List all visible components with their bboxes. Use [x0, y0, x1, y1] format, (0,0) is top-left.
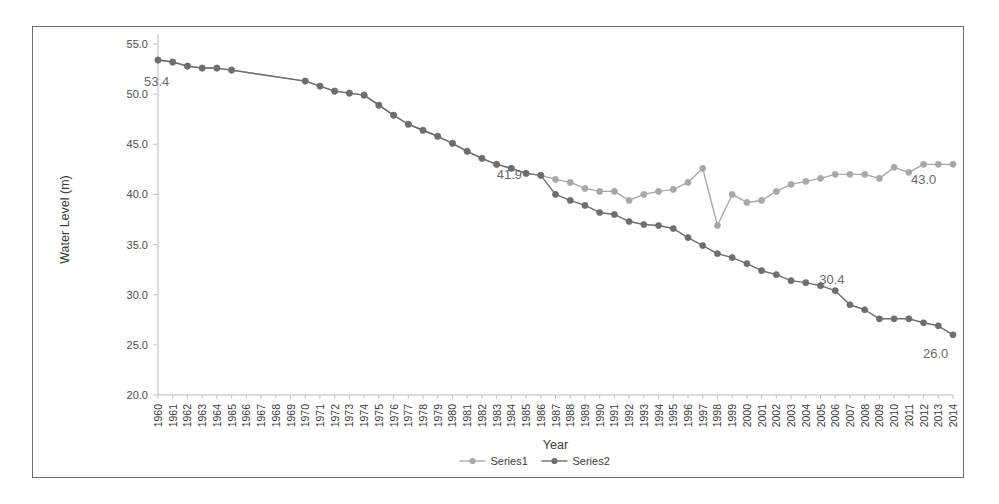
x-tick-label: 1982	[476, 404, 488, 428]
legend-label: Series1	[491, 455, 528, 467]
data-point	[950, 332, 956, 338]
x-tick-label: 1988	[564, 404, 576, 428]
legend-swatch-marker	[469, 458, 475, 464]
data-point	[567, 197, 573, 203]
x-tick-label: 1979	[432, 404, 444, 428]
x-tick-label: 1987	[550, 404, 562, 428]
data-point	[611, 188, 617, 194]
data-point	[346, 90, 352, 96]
y-tick-label: 25.0	[127, 339, 148, 351]
data-point	[655, 188, 661, 194]
data-point	[891, 316, 897, 322]
point-value-label: 26.0	[923, 346, 948, 361]
data-point	[685, 234, 691, 240]
data-point	[744, 261, 750, 267]
x-tick-label: 1990	[594, 404, 606, 428]
data-point	[862, 307, 868, 313]
data-point	[685, 179, 691, 185]
data-point	[876, 316, 882, 322]
x-tick-label: 2012	[918, 404, 930, 428]
data-point	[199, 65, 205, 71]
data-point	[420, 127, 426, 133]
x-tick-label: 2007	[844, 404, 856, 428]
y-tick-label: 55.0	[127, 38, 148, 50]
data-point	[847, 302, 853, 308]
x-tick-label: 1985	[520, 404, 532, 428]
x-axis-title: Year	[543, 438, 568, 452]
data-point	[214, 65, 220, 71]
data-point	[552, 191, 558, 197]
data-point	[744, 199, 750, 205]
point-value-label: 43.0	[911, 172, 936, 187]
data-point	[920, 161, 926, 167]
x-tick-label: 2001	[756, 404, 768, 428]
data-point	[891, 164, 897, 170]
x-tick-label: 1978	[417, 404, 429, 428]
x-tick-label: 1971	[314, 404, 326, 428]
data-point	[788, 181, 794, 187]
data-point	[155, 57, 161, 63]
data-point	[729, 191, 735, 197]
data-point	[229, 67, 235, 73]
x-tick-label: 1976	[388, 404, 400, 428]
x-tick-label: 2005	[815, 404, 827, 428]
y-tick-label: 30.0	[127, 289, 148, 301]
data-point	[435, 133, 441, 139]
y-axis-title: Water Level (m)	[58, 175, 72, 263]
data-point	[302, 78, 308, 84]
data-point	[464, 148, 470, 154]
x-tick-label: 1983	[491, 404, 503, 428]
x-tick-label: 1996	[682, 404, 694, 428]
data-point	[759, 197, 765, 203]
data-point	[332, 88, 338, 94]
point-value-label: 41.9	[497, 167, 522, 182]
data-point	[935, 323, 941, 329]
data-point	[390, 112, 396, 118]
x-tick-label: 1963	[196, 404, 208, 428]
data-point	[862, 171, 868, 177]
chart-page: 55.050.045.040.035.030.025.020.0 1960196…	[0, 0, 999, 504]
x-tick-label: 1993	[638, 404, 650, 428]
data-point	[920, 320, 926, 326]
data-point	[626, 218, 632, 224]
x-tick-label: 2014	[947, 404, 959, 428]
data-point	[832, 171, 838, 177]
data-point	[935, 161, 941, 167]
x-tick-label: 1961	[167, 404, 179, 428]
water-level-line-chart: 55.050.045.040.035.030.025.020.0 1960196…	[33, 27, 963, 477]
x-tick-label: 1968	[270, 404, 282, 428]
data-point	[832, 288, 838, 294]
x-tick-label: 2000	[741, 404, 753, 428]
data-point	[597, 188, 603, 194]
x-tick-label: 1997	[697, 404, 709, 428]
data-point	[876, 175, 882, 181]
data-point	[582, 202, 588, 208]
data-point	[670, 186, 676, 192]
x-tick-label: 1995	[667, 404, 679, 428]
x-tick-label: 1994	[653, 404, 665, 428]
data-point	[449, 140, 455, 146]
x-tick-label: 1998	[711, 404, 723, 428]
x-tick-label: 2006	[829, 404, 841, 428]
x-tick-label: 1962	[181, 404, 193, 428]
data-point	[376, 102, 382, 108]
x-tick-label: 2013	[932, 404, 944, 428]
x-tick-label: 1991	[608, 404, 620, 428]
x-tick-label: 1969	[285, 404, 297, 428]
x-tick-label: 1965	[226, 404, 238, 428]
data-point	[714, 222, 720, 228]
x-tick-label: 1999	[726, 404, 738, 428]
data-point	[567, 179, 573, 185]
x-tick-label: 1966	[240, 404, 252, 428]
y-tick-label: 40.0	[127, 188, 148, 200]
point-value-label: 30.4	[819, 272, 844, 287]
data-point	[700, 165, 706, 171]
data-point	[950, 161, 956, 167]
x-tick-label: 1980	[446, 404, 458, 428]
point-value-label: 53.4	[144, 74, 169, 89]
x-tick-label: 2002	[770, 404, 782, 428]
data-point	[479, 155, 485, 161]
data-point	[641, 191, 647, 197]
data-point	[700, 242, 706, 248]
x-tick-label: 1973	[343, 404, 355, 428]
